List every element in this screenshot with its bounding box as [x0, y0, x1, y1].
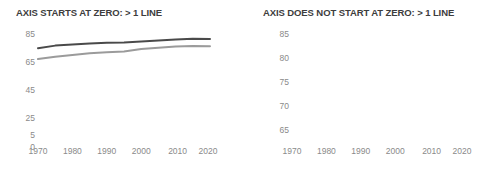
x-tick-label: 2020	[449, 147, 475, 156]
x-tick-label: 2010	[419, 147, 445, 156]
y-tick-label: 25	[13, 114, 35, 123]
y-tick-label: 65	[267, 126, 289, 135]
x-tick-label: 1970	[279, 147, 305, 156]
chart-panel-axis-starts-at-zero: AXIS STARTS AT ZERO: > 1 LINE 0525456585…	[0, 0, 251, 171]
y-tick-label: 5	[13, 131, 35, 140]
y-tick-label: 70	[267, 102, 289, 111]
chart-comparison-figure: AXIS STARTS AT ZERO: > 1 LINE 0525456585…	[0, 0, 502, 171]
x-tick-label: 1990	[348, 147, 374, 156]
chart-panel-axis-does-not-start-at-zero: AXIS DOES NOT START AT ZERO: > 1 LINE 65…	[251, 0, 502, 171]
x-tick-label: 2010	[165, 147, 191, 156]
y-tick-label: 85	[13, 30, 35, 39]
y-tick-label: 85	[267, 30, 289, 39]
series-line-light-line	[38, 46, 210, 59]
x-tick-label: 2000	[382, 147, 408, 156]
x-tick-label: 1990	[94, 147, 120, 156]
series-container-left	[38, 26, 210, 146]
x-tick-label: 2000	[128, 147, 154, 156]
chart-title-right: AXIS DOES NOT START AT ZERO: > 1 LINE	[263, 7, 454, 18]
x-tick-label: 1980	[59, 147, 85, 156]
chart-title-left: AXIS STARTS AT ZERO: > 1 LINE	[16, 7, 162, 18]
y-tick-label: 80	[267, 54, 289, 63]
plot-area-left	[38, 26, 210, 146]
y-tick-label: 65	[13, 58, 35, 67]
y-tick-label: 45	[13, 86, 35, 95]
x-tick-label: 1980	[313, 147, 339, 156]
y-tick-label: 75	[267, 78, 289, 87]
x-tick-label: 1970	[25, 147, 51, 156]
x-tick-label: 2020	[195, 147, 221, 156]
